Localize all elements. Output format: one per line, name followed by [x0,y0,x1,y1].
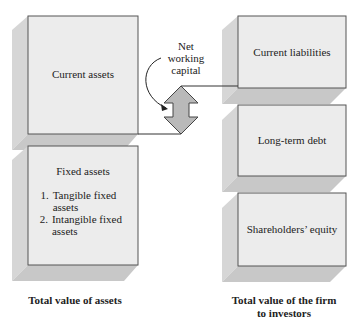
list-item: 2. Intangible fixed assets [36,213,136,237]
balance-sheet-diagram: Current assets Fixed assets 1. Tangible … [0,0,354,319]
total-assets-caption: Total value of assets [10,294,140,307]
current-liabilities-box [222,16,346,104]
current-assets-box [12,16,138,150]
list-item: 1. Tangible fixed assets [36,189,136,213]
net-working-capital-label: Net working capital [156,40,216,76]
long-term-debt-label: Long-term debt [238,134,346,146]
shareholders-equity-label: Shareholders’ equity [238,223,346,235]
double-arrow-icon [164,86,198,134]
current-liabilities-label: Current liabilities [238,46,346,58]
total-firm-value-caption: Total value of the firm to investors [222,294,346,319]
fixed-assets-label: Fixed assets [28,165,138,177]
long-term-debt-box [222,105,346,192]
current-assets-label: Current assets [28,68,138,80]
fixed-assets-list: 1. Tangible fixed assets 2. Intangible f… [36,189,136,237]
curved-arrow-head-icon [161,104,168,111]
shareholders-equity-box [222,193,346,282]
